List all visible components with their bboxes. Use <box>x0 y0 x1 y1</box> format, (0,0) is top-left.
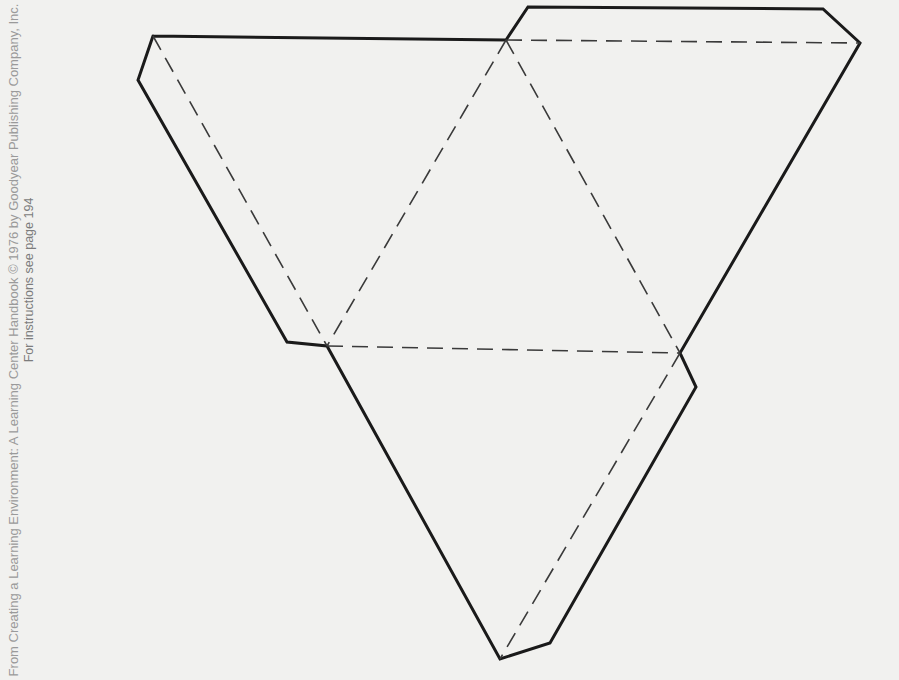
fold-line-center-right <box>506 40 680 353</box>
fold-line-left-tab <box>153 36 327 346</box>
worksheet-page: From Creating a Learning Environment: A … <box>0 0 899 680</box>
fold-line-center-left <box>327 40 506 346</box>
fold-line-bottom-tab <box>500 353 680 659</box>
tetrahedron-net-figure <box>0 0 899 680</box>
cut-outline <box>138 7 860 659</box>
fold-line-middle <box>327 346 680 353</box>
fold-lines <box>153 36 860 659</box>
fold-line-top <box>506 40 860 43</box>
